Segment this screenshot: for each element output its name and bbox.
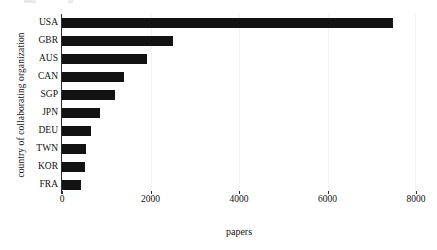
bar-kor[interactable] xyxy=(62,162,85,172)
bar-row: GBR xyxy=(62,36,416,46)
bar-usa[interactable] xyxy=(62,18,393,28)
y-tick-label-deu: DEU xyxy=(38,126,58,136)
cropped-text-remnant xyxy=(68,0,73,3)
bar-row: CAN xyxy=(62,72,416,82)
bar-row: USA xyxy=(62,18,416,28)
bar-row: JPN xyxy=(62,108,416,118)
y-tick-label-jpn: JPN xyxy=(42,108,58,118)
x-tick-label-6000: 6000 xyxy=(318,194,337,204)
bar-chart-figure: country of collaborating organization US… xyxy=(0,0,437,250)
bar-row: DEU xyxy=(62,126,416,136)
y-tick-label-fra: FRA xyxy=(40,180,58,190)
x-tick-label-2000: 2000 xyxy=(141,194,160,204)
x-axis: 02000400060008000 xyxy=(62,194,416,218)
bar-deu[interactable] xyxy=(62,126,91,136)
cropped-text-remnant xyxy=(24,0,36,3)
y-tick-label-can: CAN xyxy=(38,72,58,82)
bar-row: AUS xyxy=(62,54,416,64)
bar-jpn[interactable] xyxy=(62,108,100,118)
y-tick-label-gbr: GBR xyxy=(38,36,58,46)
x-axis-title: papers xyxy=(62,226,416,237)
bar-sgp[interactable] xyxy=(62,90,115,100)
y-axis-title: country of collaborating organization xyxy=(14,5,28,205)
bar-twn[interactable] xyxy=(62,144,86,154)
y-tick-label-twn: TWN xyxy=(36,144,58,154)
x-tick-label-4000: 4000 xyxy=(230,194,249,204)
bar-aus[interactable] xyxy=(62,54,147,64)
plot-area: USAGBRAUSCANSGPJPNDEUTWNKORFRA xyxy=(62,14,416,194)
bar-row: KOR xyxy=(62,162,416,172)
bar-can[interactable] xyxy=(62,72,124,82)
bar-fra[interactable] xyxy=(62,180,81,190)
x-tick-label-8000: 8000 xyxy=(407,194,426,204)
bar-row: FRA xyxy=(62,180,416,190)
y-tick-label-kor: KOR xyxy=(38,162,58,172)
y-tick-label-aus: AUS xyxy=(39,54,58,64)
bar-row: TWN xyxy=(62,144,416,154)
bar-row: SGP xyxy=(62,90,416,100)
bar-gbr[interactable] xyxy=(62,36,173,46)
y-tick-label-usa: USA xyxy=(39,18,58,28)
x-tick-label-0: 0 xyxy=(60,194,65,204)
y-tick-label-sgp: SGP xyxy=(41,90,58,100)
